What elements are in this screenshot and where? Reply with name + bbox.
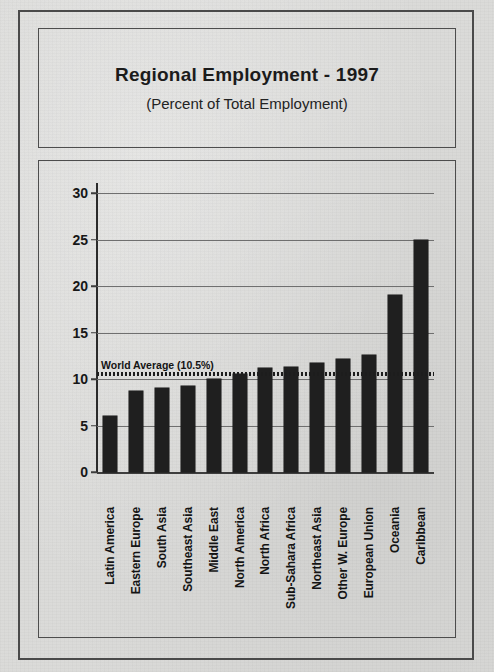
x-axis-label-southeast-asia: Southeast Asia [181, 507, 195, 592]
x-axis-label-sub-sahara-africa: Sub-Sahara Africa [284, 507, 298, 609]
bar-other-w-europe[interactable] [336, 359, 350, 472]
bar-south-asia[interactable] [155, 388, 169, 472]
y-tick-label-5: 5 [80, 418, 88, 434]
y-tick-label-20: 20 [72, 278, 88, 294]
bar-southeast-asia[interactable] [181, 386, 195, 472]
x-label-slot: Southeast Asia [175, 507, 201, 627]
bar-slot [356, 193, 382, 472]
x-label-slot: Middle East [201, 507, 227, 627]
bar-caribbean[interactable] [414, 240, 428, 473]
x-axis-label-caribbean: Caribbean [414, 507, 428, 565]
x-axis-label-northeast-asia: Northeast Asia [310, 507, 324, 590]
x-axis-label-south-asia: South Asia [155, 507, 169, 568]
x-axis-label-north-africa: North Africa [258, 507, 272, 575]
bar-eastern-europe[interactable] [129, 391, 143, 472]
x-axis-label-middle-east: Middle East [207, 507, 221, 573]
bar-sub-sahara-africa[interactable] [284, 367, 298, 472]
bar-northeast-asia[interactable] [310, 363, 324, 472]
x-axis-label-latin-america: Latin America [103, 507, 117, 585]
x-label-slot: North Africa [253, 507, 279, 627]
x-label-slot: Oceania [382, 507, 408, 627]
y-tick-label-15: 15 [72, 325, 88, 341]
bar-slot [227, 193, 253, 472]
x-label-slot: Caribbean [408, 507, 434, 627]
chart-title: Regional Employment - 1997 [115, 64, 379, 86]
y-tick-label-0: 0 [80, 464, 88, 480]
x-label-slot: North America [227, 507, 253, 627]
x-label-slot: Latin America [97, 507, 123, 627]
bar-slot [382, 193, 408, 472]
x-axis-label-oceania: Oceania [388, 507, 402, 553]
x-label-slot: Northeast Asia [304, 507, 330, 627]
bar-series [97, 193, 434, 472]
x-axis-labels: Latin AmericaEastern EuropeSouth AsiaSou… [97, 507, 434, 627]
x-label-slot: South Asia [149, 507, 175, 627]
bar-slot [278, 193, 304, 472]
bar-slot [253, 193, 279, 472]
y-tick-label-10: 10 [72, 371, 88, 387]
bar-north-africa[interactable] [258, 368, 272, 472]
title-panel: Regional Employment - 1997 (Percent of T… [38, 28, 456, 148]
scanned-page: Regional Employment - 1997 (Percent of T… [0, 0, 494, 672]
bar-north-america[interactable] [233, 374, 247, 472]
bar-slot [149, 193, 175, 472]
x-label-slot: Eastern Europe [123, 507, 149, 627]
bar-slot [330, 193, 356, 472]
world-average-label: World Average (10.5%) [101, 359, 214, 371]
chart-subtitle: (Percent of Total Employment) [146, 95, 347, 112]
bar-slot [97, 193, 123, 472]
x-label-slot: European Union [356, 507, 382, 627]
bar-slot [304, 193, 330, 472]
bar-slot [201, 193, 227, 472]
bar-middle-east[interactable] [207, 379, 221, 472]
y-tick-label-25: 25 [72, 232, 88, 248]
x-axis-label-european-union: European Union [362, 507, 376, 598]
world-average-line [97, 372, 434, 376]
bar-slot [175, 193, 201, 472]
bar-slot [123, 193, 149, 472]
x-label-slot: Other W. Europe [330, 507, 356, 627]
x-label-slot: Sub-Sahara Africa [278, 507, 304, 627]
bar-slot [408, 193, 434, 472]
x-axis-label-other-w-europe: Other W. Europe [336, 507, 350, 600]
chart-panel: 051015202530 World Average (10.5%) Latin… [38, 160, 456, 638]
y-tick-label-30: 30 [72, 185, 88, 201]
plot-area: 051015202530 World Average (10.5%) [97, 193, 434, 472]
x-axis-label-north-america: North America [233, 507, 247, 588]
bar-oceania[interactable] [388, 295, 402, 472]
x-axis-label-eastern-europe: Eastern Europe [129, 507, 143, 594]
gridline-0 [97, 472, 434, 474]
bar-latin-america[interactable] [103, 416, 117, 472]
